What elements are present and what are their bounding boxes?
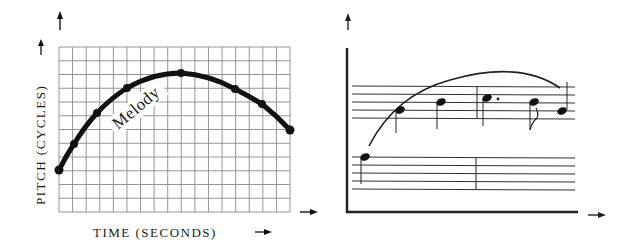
y-axis-label-group: PITCH (CYCLES) [33,39,48,205]
melody-label: Melody [108,83,163,133]
x-label-arrow-icon [255,229,272,235]
horizontal-axis-arrow-icon [588,212,606,218]
data-point [286,126,295,135]
pitch-time-graph-svg: Melody PITCH (CYCLES) TIME (SECONDS) [0,0,320,247]
data-point [55,166,64,175]
note-3 [435,97,447,129]
data-point [123,84,131,92]
data-point [70,140,78,148]
y-axis-label: PITCH (CYCLES) [33,85,48,205]
upper-staff [352,86,575,119]
note-5 [528,97,540,130]
data-point [258,100,266,108]
y-axis-arrow-icon [57,11,63,30]
note-1 [359,152,371,184]
musical-staff-diagram [320,0,637,247]
pitch-time-graph: Melody PITCH (CYCLES) TIME (SECONDS) [0,0,320,247]
staff-axes [346,48,578,213]
data-point [93,109,101,117]
melody-curve [59,73,290,170]
vertical-axis-arrow-icon [345,13,351,30]
x-axis-arrow-icon [300,209,318,215]
lower-staff [352,157,575,190]
data-point [177,69,185,77]
y-label-arrow-icon [38,39,44,46]
dot-icon [497,98,500,101]
musical-staff-svg [320,0,637,247]
x-axis-label: TIME (SECONDS) [93,225,217,240]
note-4 [481,93,499,126]
data-point [231,85,239,93]
melody-label-group: Melody [105,79,168,137]
